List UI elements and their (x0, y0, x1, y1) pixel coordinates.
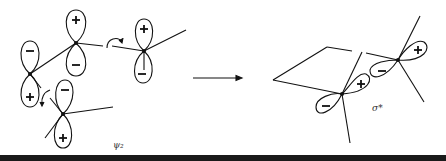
bottom-border (0, 155, 446, 161)
rotation-arrows (40, 38, 123, 106)
psi2-label: ψ₂ (113, 140, 124, 150)
left-bonds (30, 30, 186, 138)
right-atoms (340, 58, 400, 96)
left-atoms (28, 41, 146, 116)
sigma-star-label: σ* (372, 103, 383, 113)
right-bonds (273, 16, 424, 143)
left-lobes (21, 10, 153, 148)
orbital-diagram: ψ₂ σ* (0, 0, 446, 161)
diagram-svg (0, 0, 446, 161)
reaction-arrow (193, 76, 242, 81)
sign-glyphs (26, 16, 422, 142)
